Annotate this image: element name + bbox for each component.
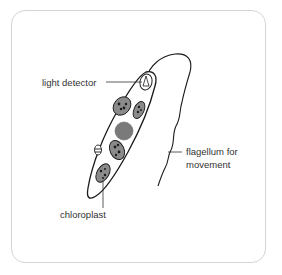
flagellum-label-line1: flagellum for: [186, 146, 238, 158]
euglena-diagram: [0, 0, 282, 275]
nucleus: [115, 122, 133, 140]
light-detector-label: light detector: [42, 77, 96, 89]
vacuole-icon: [95, 145, 102, 155]
flagellum-label-line2: movement: [186, 159, 230, 171]
chloroplast-label: chloroplast: [60, 209, 106, 221]
